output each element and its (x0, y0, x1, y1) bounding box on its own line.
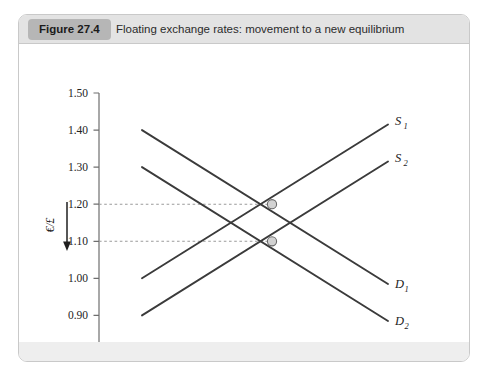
y-tick-label-1-30: 1.30 (68, 161, 88, 173)
y-tick-label-0-90: 0.90 (68, 309, 88, 321)
curve-label-D1: D 1 (394, 277, 409, 294)
supply-demand-chart: 1.50 1.40 1.30 1.20 1.10 1.00 0.90 0.80 … (19, 44, 470, 344)
curve-label-S2-subscript: 2 (404, 158, 409, 168)
figure-card: Figure 27.4 Floating exchange rates: mov… (18, 14, 470, 362)
equilibrium-marker-1 (267, 200, 276, 209)
figure-caption: Floating exchange rates: movement to a n… (116, 19, 404, 40)
y-axis-ticks (94, 93, 100, 344)
curve-label-S2-letter: S (395, 151, 402, 165)
curve-label-S1: S 1 (395, 114, 408, 131)
y-axis-title: €/£ (44, 217, 56, 232)
curve-label-D2: D 2 (394, 314, 410, 331)
curve-label-D1-subscript: 1 (405, 284, 409, 294)
curve-label-D2-letter: D (394, 314, 404, 328)
curve-label-S2: S 2 (395, 151, 409, 168)
curve-S2 (142, 162, 388, 316)
y-tick-label-1-20: 1.20 (68, 198, 88, 210)
curve-label-S1-subscript: 1 (404, 121, 408, 131)
y-tick-label-1-00: 1.00 (68, 272, 88, 284)
card-footer-strip (19, 342, 469, 361)
figure-root: Figure 27.4 Floating exchange rates: mov… (0, 0, 488, 392)
curve-label-D1-letter: D (394, 277, 404, 291)
curve-label-S1-letter: S (395, 114, 402, 128)
chart-plot-panel: 1.50 1.40 1.30 1.20 1.10 1.00 0.90 0.80 … (19, 44, 470, 344)
figure-header: Figure 27.4 Floating exchange rates: mov… (19, 15, 469, 44)
y-tick-label-1-40: 1.40 (68, 124, 88, 136)
figure-number-badge: Figure 27.4 (28, 19, 111, 40)
y-tick-label-1-50: 1.50 (68, 87, 88, 99)
curve-D2 (142, 167, 388, 321)
curve-D1 (142, 130, 388, 284)
curve-S1 (142, 125, 388, 279)
y-tick-label-1-10: 1.10 (68, 235, 88, 247)
equilibrium-marker-2 (267, 237, 276, 246)
curve-label-D2-subscript: 2 (405, 321, 410, 331)
